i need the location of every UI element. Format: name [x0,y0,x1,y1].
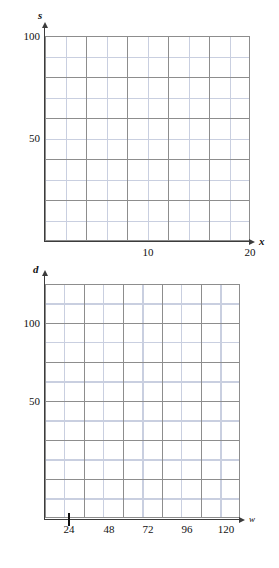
minor-gridlines-bottom [45,284,240,518]
plot-frame-bottom [45,284,240,518]
x-tick-label-72: 72 [135,524,161,535]
plot-frame-top [45,36,250,241]
plot-area-d-vs-w [45,284,240,518]
y-tick-label-100-top: 100 [8,31,40,42]
x-axis-arrow-bottom [239,517,245,523]
x-axis-label-w: w [249,515,255,524]
major-gridlines-bottom [45,284,240,518]
y-axis-line-bottom [44,276,45,520]
figure-s-vs-x: s x 100 50 10 20 [0,0,279,255]
x-axis-line-bottom [44,519,240,520]
x-tick-label-10-top: 10 [132,247,164,258]
y-tick-label-50-bottom: 50 [8,396,40,407]
major-gridlines-top [45,36,250,241]
y-axis-line-top [44,28,45,242]
worksheet-page: s x 100 50 10 20 d w 100 50 [0,0,279,568]
x-axis-arrow-top [249,239,255,245]
x-tick-label-120: 120 [211,524,241,535]
x-tick-label-20-top: 20 [234,247,266,258]
y-axis-label-s: s [38,10,42,21]
x-tick-label-96: 96 [174,524,200,535]
x-axis-line-top [44,241,250,242]
y-tick-label-50-top: 50 [8,133,40,144]
x-axis-label-x: x [259,236,265,247]
plot-area-s-vs-x [45,36,250,241]
x-tick-label-24: 24 [56,524,82,535]
y-axis-arrow-bottom [42,270,48,276]
y-axis-arrow-top [42,22,48,28]
figure-d-vs-w: d w 100 50 24 48 72 96 120 [0,258,279,568]
x-tick-label-48: 48 [96,524,122,535]
y-tick-label-100-bottom: 100 [8,318,40,329]
minor-gridlines-top [45,36,250,241]
y-axis-label-d: d [33,264,39,275]
